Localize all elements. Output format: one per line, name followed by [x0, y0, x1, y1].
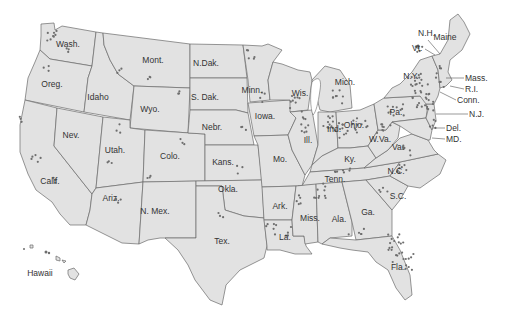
location-dot	[296, 200, 298, 202]
location-dot	[418, 102, 420, 104]
state-label-fla: Fla.	[391, 262, 405, 272]
location-dot	[391, 238, 393, 240]
location-dot	[379, 191, 381, 193]
state-label-wyo: Wyo.	[140, 104, 159, 114]
location-dot	[387, 234, 389, 236]
location-dot	[428, 93, 430, 95]
location-dot	[348, 233, 350, 235]
location-dot	[52, 35, 54, 37]
location-dot	[428, 99, 430, 101]
location-dot	[183, 143, 185, 145]
location-dot	[409, 154, 411, 156]
location-dot	[111, 162, 113, 164]
state-label-mass: Mass.	[465, 73, 488, 83]
location-dot	[439, 65, 441, 67]
location-dot	[393, 240, 395, 242]
location-dot	[405, 258, 407, 260]
location-dot	[237, 172, 239, 174]
location-dot	[149, 175, 151, 177]
location-dot	[46, 39, 48, 41]
state-label-miss: Miss.	[300, 213, 320, 223]
location-dot	[419, 82, 421, 84]
location-dot	[349, 167, 351, 169]
state-label-nh: N.H.	[418, 28, 435, 38]
location-dot	[336, 95, 338, 97]
location-dot	[146, 177, 148, 179]
location-dot	[275, 224, 277, 226]
location-dot	[342, 95, 344, 97]
location-dot	[408, 258, 410, 260]
location-dot	[47, 32, 49, 34]
location-dot	[298, 203, 300, 205]
location-dot	[108, 160, 110, 162]
location-dot	[409, 149, 411, 151]
location-dot	[120, 199, 122, 201]
location-dot	[332, 115, 334, 117]
state-label-nmex: N. Mex.	[140, 206, 169, 216]
location-dot	[149, 76, 151, 78]
state-label-tenn: Tenn.	[325, 174, 346, 184]
location-dot	[364, 120, 366, 122]
location-dot	[432, 103, 434, 105]
location-dot	[305, 131, 307, 133]
location-dot	[382, 130, 384, 132]
location-dot	[120, 68, 122, 70]
state-label-ill: Ill.	[304, 135, 313, 145]
state-label-conn: Conn.	[457, 95, 480, 105]
location-dot	[245, 129, 247, 131]
location-dot	[19, 116, 21, 118]
location-dot	[274, 233, 276, 235]
leader-line-md	[432, 138, 445, 139]
location-dot	[240, 126, 242, 128]
location-dot	[327, 121, 329, 123]
state-label-ariz: Ariz.	[103, 193, 120, 203]
location-dot	[416, 106, 418, 108]
state-label-ny: N.Y.	[403, 71, 418, 81]
state-label-pa: Pa.	[390, 107, 403, 117]
location-dot	[67, 51, 69, 53]
location-dot	[332, 90, 334, 92]
location-dot	[43, 67, 45, 69]
location-dot	[273, 223, 275, 225]
location-dot	[414, 90, 416, 92]
location-dot	[398, 233, 400, 235]
location-dot	[421, 85, 423, 87]
location-dot	[181, 142, 183, 144]
location-dot	[420, 73, 422, 75]
location-dot	[410, 256, 412, 258]
leader-line-conn	[440, 92, 456, 100]
location-dot	[436, 72, 438, 74]
location-dot	[410, 84, 412, 86]
state-label-ri: R.I.	[465, 84, 478, 94]
location-dot	[365, 126, 367, 128]
location-dot	[341, 102, 343, 104]
location-dot	[267, 223, 269, 225]
location-dot	[360, 233, 362, 235]
location-dot	[178, 90, 180, 92]
location-dot	[30, 158, 32, 160]
location-dot	[432, 101, 434, 103]
location-dot	[236, 165, 238, 167]
location-dot	[55, 30, 57, 32]
state-label-wis: Wis.	[292, 88, 309, 98]
state-label-iowa: Iowa.	[255, 111, 275, 121]
location-dot	[295, 102, 297, 104]
location-dot	[246, 49, 248, 51]
location-dot	[412, 96, 414, 98]
location-dot	[338, 137, 340, 139]
location-dot	[358, 232, 360, 234]
state-label-ndak: N.Dak.	[193, 58, 219, 68]
leader-line-vt	[425, 49, 435, 55]
location-dot	[389, 242, 391, 244]
state-label-ark: Ark.	[272, 201, 287, 211]
location-dot	[299, 197, 301, 199]
state-label-sdak: S. Dak.	[191, 92, 219, 102]
location-dot	[391, 249, 393, 251]
location-dot	[324, 195, 326, 197]
state-label-calif: Calif.	[40, 176, 59, 186]
location-dot	[363, 228, 365, 230]
location-dot	[424, 104, 426, 106]
location-dot	[179, 138, 181, 140]
location-dot	[421, 106, 423, 108]
location-dot	[339, 89, 341, 91]
